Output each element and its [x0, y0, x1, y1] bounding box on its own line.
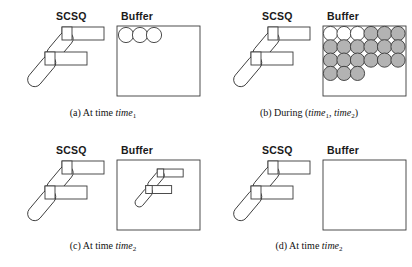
panel-a-caption-sub: 1: [133, 112, 137, 120]
buffer-circle: [323, 40, 337, 54]
buffer-circle: [377, 40, 391, 54]
panel-d-caption: (d) At time time2: [206, 240, 412, 251]
arm-lower-joint: [251, 52, 261, 65]
buffer-circle: [350, 66, 364, 80]
panel-a-caption-prefix: (a) At time: [70, 107, 116, 118]
buffer-circle: [337, 53, 351, 67]
panel-d-caption-sub: 2: [339, 245, 343, 253]
panel-b-caption-term: time: [308, 107, 325, 118]
panel-a: SCSQ Buffer: [0, 0, 206, 133]
arm-upper-joint: [268, 27, 278, 40]
buffer-circle: [350, 26, 364, 40]
panel-b-caption-sub: 1: [325, 112, 329, 120]
buffer-circle: [377, 53, 391, 67]
panel-d-caption-term: time: [322, 240, 339, 251]
buffer-circle: [377, 26, 391, 40]
panel-c-caption-sub: 2: [133, 245, 137, 253]
arm-upper-joint: [62, 27, 72, 40]
panel-a-caption-term: time: [116, 107, 133, 118]
panel-b-caption: (b) During (time1, time2): [206, 107, 412, 118]
arm-lower-joint: [45, 52, 55, 65]
panel-a-buffer-items: [118, 27, 161, 42]
panel-d-buffer-box: [323, 160, 406, 230]
panel-b-caption-term2: time: [334, 107, 351, 118]
buffer-circle: [337, 26, 351, 40]
buffer-circle: [146, 27, 161, 42]
buffer-circle: [364, 53, 378, 67]
panel-d: SCSQ Buffer (d) At time time2: [206, 134, 412, 267]
buffer-circle: [391, 53, 405, 67]
buffer-circle: [323, 66, 337, 80]
panel-b-caption-sub2: 2: [351, 112, 355, 120]
panel-a-caption: (a) At time time1: [0, 107, 206, 118]
figure-container: SCSQ Buffer: [0, 0, 412, 267]
panel-c-caption-term: time: [116, 240, 133, 251]
buffer-circle: [350, 53, 364, 67]
panel-b-caption-suffix: ): [355, 107, 358, 118]
panel-c: SCSQ Buffer: [0, 134, 206, 267]
buffer-circle: [323, 26, 337, 40]
panel-b: SCSQ Buffer: [206, 0, 412, 133]
mini-arm-lower-joint: [146, 186, 152, 194]
panel-c-caption: (c) At time time2: [0, 240, 206, 251]
arm-lower-joint: [45, 186, 55, 199]
buffer-circle: [132, 27, 147, 42]
arm-lower-joint: [251, 186, 261, 199]
mini-arm-upper-joint: [157, 169, 163, 177]
arm-upper-joint: [268, 161, 278, 174]
buffer-circle: [391, 40, 405, 54]
buffer-circle: [337, 66, 351, 80]
buffer-circle: [323, 53, 337, 67]
buffer-circle: [364, 40, 378, 54]
buffer-circle: [118, 27, 133, 42]
buffer-circle: [350, 40, 364, 54]
buffer-circle: [337, 40, 351, 54]
panel-b-caption-prefix: (b) During (: [260, 107, 308, 118]
buffer-circle: [391, 26, 405, 40]
panel-d-caption-prefix: (d) At time: [275, 240, 321, 251]
panel-c-caption-prefix: (c) At time: [70, 240, 116, 251]
buffer-circle: [364, 26, 378, 40]
arm-upper-joint: [62, 161, 72, 174]
